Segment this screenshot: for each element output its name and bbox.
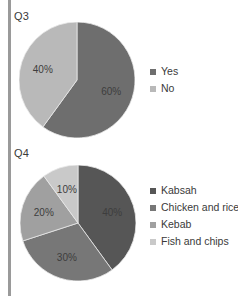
legend-item[interactable]: Fish and chips bbox=[150, 236, 238, 247]
pie-chart-q3 bbox=[19, 22, 135, 138]
legend-item[interactable]: No bbox=[150, 83, 178, 94]
chart-title-q3: Q3 bbox=[14, 10, 29, 22]
legend-item[interactable]: Yes bbox=[150, 66, 178, 77]
legend-label: Yes bbox=[161, 66, 178, 77]
legend-q4: KabsahChicken and riceKebabFish and chip… bbox=[150, 185, 238, 253]
legend-label: Fish and chips bbox=[161, 236, 229, 247]
chart-title-q4: Q4 bbox=[14, 147, 29, 159]
legend-swatch-icon bbox=[150, 69, 156, 75]
legend-label: Chicken and rice bbox=[161, 202, 238, 213]
legend-swatch-icon bbox=[150, 188, 156, 194]
pie-slice-label: 40% bbox=[102, 206, 122, 217]
pie-slice-label: 30% bbox=[57, 252, 77, 263]
legend-item[interactable]: Kabsah bbox=[150, 185, 238, 196]
document-page: Q3 60%40% YesNo Q4 40%30%20%10% KabsahCh… bbox=[0, 0, 238, 296]
pie-chart-q4 bbox=[20, 165, 136, 281]
legend-swatch-icon bbox=[150, 205, 156, 211]
legend-label: Kabsah bbox=[161, 185, 197, 196]
legend-q3: YesNo bbox=[150, 66, 178, 100]
legend-swatch-icon bbox=[150, 222, 156, 228]
pie-slice-label: 20% bbox=[34, 206, 54, 217]
legend-label: No bbox=[161, 83, 174, 94]
chart-block-q3: Q3 60%40% YesNo bbox=[0, 0, 238, 146]
legend-swatch-icon bbox=[150, 239, 156, 245]
legend-item[interactable]: Kebab bbox=[150, 219, 238, 230]
legend-item[interactable]: Chicken and rice bbox=[150, 202, 238, 213]
legend-swatch-icon bbox=[150, 86, 156, 92]
pie-slice-label: 40% bbox=[33, 63, 53, 74]
pie-slice-label: 60% bbox=[101, 86, 121, 97]
legend-label: Kebab bbox=[161, 219, 191, 230]
pie-slice-label: 10% bbox=[57, 183, 77, 194]
